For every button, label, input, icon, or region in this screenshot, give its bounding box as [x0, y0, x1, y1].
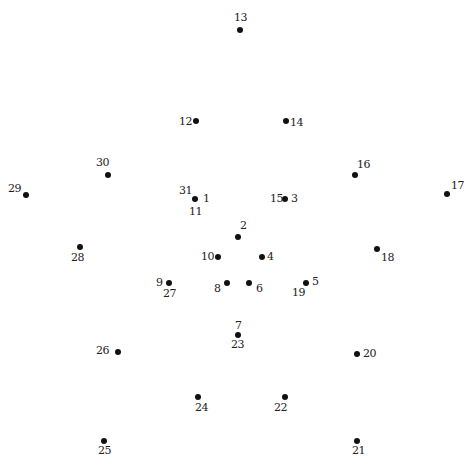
dot-number-label: 20	[363, 348, 376, 359]
dot-number-label: 7	[235, 320, 242, 331]
dot-to-dot-canvas: 1311123154519687239271012131416171820212…	[0, 0, 472, 476]
dot-number-label: 17	[451, 180, 464, 191]
dot-number-label: 3	[291, 193, 298, 204]
puzzle-dot	[166, 280, 172, 286]
puzzle-dot	[444, 191, 450, 197]
puzzle-dot	[283, 118, 289, 124]
dot-number-label: 31	[179, 185, 192, 196]
dot-number-label: 22	[274, 402, 287, 413]
puzzle-dot	[235, 234, 241, 240]
dot-number-label: 12	[179, 116, 192, 127]
puzzle-dot	[115, 349, 121, 355]
dot-number-label: 8	[214, 283, 221, 294]
puzzle-dot	[215, 254, 221, 260]
puzzle-dot	[23, 192, 29, 198]
dot-number-label: 23	[231, 339, 244, 350]
dot-number-label: 1	[203, 193, 210, 204]
dot-number-label: 24	[195, 402, 208, 413]
dot-number-label: 4	[267, 251, 274, 262]
puzzle-dot	[246, 280, 252, 286]
dot-number-label: 11	[189, 206, 202, 217]
dot-number-label: 28	[71, 252, 84, 263]
dot-number-label: 14	[290, 117, 303, 128]
dot-number-label: 18	[381, 252, 394, 263]
dot-number-label: 25	[98, 445, 111, 456]
puzzle-dot	[105, 172, 111, 178]
puzzle-dot	[237, 27, 243, 33]
dot-number-label: 5	[312, 276, 319, 287]
dot-number-label: 29	[8, 183, 21, 194]
dot-number-label: 21	[352, 445, 365, 456]
puzzle-dot	[195, 394, 201, 400]
puzzle-dot	[352, 172, 358, 178]
dot-number-label: 15	[270, 193, 283, 204]
dot-number-label: 9	[156, 277, 163, 288]
dot-number-label: 6	[256, 283, 263, 294]
puzzle-dot	[259, 254, 265, 260]
dot-number-label: 16	[357, 159, 370, 170]
dot-number-label: 2	[240, 220, 247, 231]
dot-number-label: 30	[96, 157, 109, 168]
dot-number-label: 26	[96, 345, 109, 356]
puzzle-dot	[192, 196, 198, 202]
dot-number-label: 19	[292, 287, 305, 298]
dot-number-label: 13	[234, 12, 247, 23]
dot-number-label: 27	[163, 288, 176, 299]
puzzle-dot	[224, 280, 230, 286]
puzzle-dot	[282, 394, 288, 400]
puzzle-dot	[374, 246, 380, 252]
puzzle-dot	[77, 244, 83, 250]
puzzle-dot	[193, 118, 199, 124]
dot-number-label: 10	[201, 251, 214, 262]
puzzle-dot	[354, 351, 360, 357]
